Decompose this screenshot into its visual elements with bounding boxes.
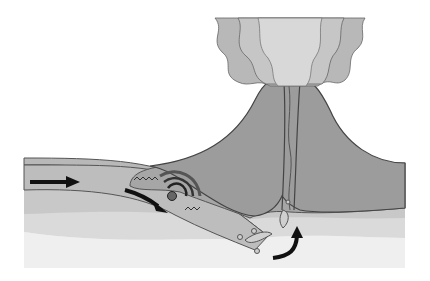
diagram-canvas [0, 0, 430, 281]
quake-focus-dot [168, 192, 177, 201]
subduction-volcano-diagram [0, 0, 430, 281]
